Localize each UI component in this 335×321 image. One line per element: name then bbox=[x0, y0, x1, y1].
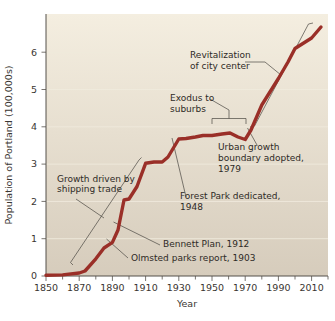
x-tick-label: 1990 bbox=[266, 282, 290, 293]
x-tick-label: 2010 bbox=[300, 282, 324, 293]
growth-shipping-line1: Growth driven by bbox=[57, 174, 135, 184]
x-tick-label: 1870 bbox=[67, 282, 91, 293]
x-tick-label: 1950 bbox=[200, 282, 224, 293]
x-axis-tick-labels: 1850 1870 1890 1910 1930 1950 1970 1990 … bbox=[34, 282, 324, 293]
x-tick-label: 1850 bbox=[34, 282, 58, 293]
urban-growth-line2: boundary adopted, bbox=[218, 153, 304, 163]
y-axis-tick-labels: 0 1 2 3 4 5 6 bbox=[31, 47, 37, 282]
forest-park-line1: Forest Park dedicated, bbox=[180, 191, 280, 201]
y-tick-label: 5 bbox=[31, 84, 37, 95]
annotation-bennett: Bennett Plan, 1912 bbox=[163, 239, 249, 249]
exodus-line1: Exodus to bbox=[170, 93, 215, 103]
y-tick-label: 0 bbox=[31, 270, 37, 281]
annotation-revitalization: Revitalization of city center bbox=[190, 50, 251, 71]
y-tick-label: 2 bbox=[31, 196, 37, 207]
urban-growth-line3: 1979 bbox=[218, 164, 241, 174]
urban-growth-line1: Urban growth bbox=[218, 142, 279, 152]
x-tick-label: 1970 bbox=[233, 282, 257, 293]
y-axis-ticks bbox=[42, 52, 47, 276]
x-tick-label: 1890 bbox=[100, 282, 124, 293]
forest-park-line2: 1948 bbox=[180, 202, 203, 212]
annotation-olmsted: Olmsted parks report, 1903 bbox=[131, 253, 255, 263]
portland-population-line-chart: 0 1 2 3 4 5 6 Population of Portland (10… bbox=[0, 0, 335, 321]
revitalization-line1: Revitalization bbox=[190, 50, 251, 60]
y-tick-label: 4 bbox=[31, 121, 37, 132]
x-axis-ticks bbox=[46, 276, 328, 281]
y-tick-label: 1 bbox=[31, 233, 37, 244]
chart-figure: 0 1 2 3 4 5 6 Population of Portland (10… bbox=[0, 0, 335, 321]
y-tick-label: 3 bbox=[31, 158, 37, 169]
exodus-line2: suburbs bbox=[170, 104, 206, 114]
x-tick-label: 1930 bbox=[167, 282, 191, 293]
revitalization-line2: of city center bbox=[190, 61, 250, 71]
growth-shipping-line2: shipping trade bbox=[57, 184, 123, 194]
x-tick-label: 1910 bbox=[134, 282, 158, 293]
plot-background bbox=[46, 14, 328, 276]
y-axis-title: Population of Portland (100,000s) bbox=[3, 65, 14, 224]
y-tick-label: 6 bbox=[31, 47, 37, 58]
x-axis-title: Year bbox=[176, 298, 197, 309]
